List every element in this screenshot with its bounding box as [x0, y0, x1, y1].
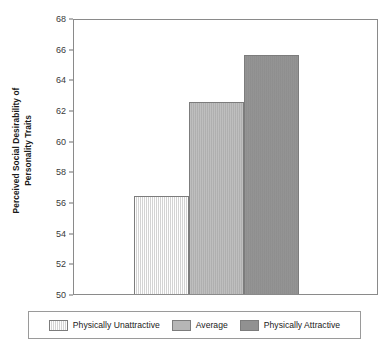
y-axis-tick-labels: 50525456586062646668: [40, 0, 66, 351]
legend-label: Average: [196, 320, 228, 330]
legend-swatch-icon: [240, 320, 259, 331]
y-axis-tick-label: 52: [40, 259, 66, 269]
y-axis-tick-label: 62: [40, 106, 66, 116]
legend-item: Average: [172, 320, 228, 331]
y-axis-tick-label: 54: [40, 229, 66, 239]
y-axis-tick-label: 58: [40, 167, 66, 177]
y-axis-tick-label: 50: [40, 290, 66, 300]
y-axis-title-line-2: Personality Traits: [23, 87, 35, 213]
legend-label: Physically Attractive: [264, 320, 340, 330]
bar-chart-figure: Perceived Social Desirability of Persona…: [0, 0, 389, 351]
legend-swatch-icon: [172, 320, 191, 331]
y-axis-title-line-1: Perceived Social Desirability of: [12, 87, 24, 213]
y-axis-tick-label: 68: [40, 14, 66, 24]
y-axis-tick-label: 64: [40, 75, 66, 85]
plot-area: [73, 19, 378, 295]
legend-item: Physically Unattractive: [49, 320, 160, 331]
y-axis-tick-label: 56: [40, 198, 66, 208]
legend-swatch-icon: [49, 320, 68, 331]
chart-legend: Physically UnattractiveAveragePhysically…: [28, 311, 361, 339]
y-axis-tick-label: 60: [40, 137, 66, 147]
y-axis-tick-label: 66: [40, 45, 66, 55]
bar-physically-unattractive: [134, 196, 189, 294]
bars-container: [74, 20, 377, 294]
bar-physically-attractive: [244, 55, 299, 294]
bar-average: [189, 102, 244, 294]
legend-item: Physically Attractive: [240, 320, 340, 331]
legend-label: Physically Unattractive: [73, 320, 160, 330]
